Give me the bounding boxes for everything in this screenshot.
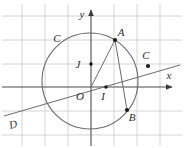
point-label-A: A	[117, 26, 125, 38]
x-axis-label: x	[166, 69, 172, 81]
point-label-C: C	[142, 49, 150, 61]
figure-canvas: A B C I J O x y C D	[0, 0, 184, 148]
point-marker-A[interactable]	[113, 38, 117, 42]
point-label-O: O	[76, 90, 84, 102]
figure-background	[0, 0, 184, 148]
point-marker-C[interactable]	[146, 64, 150, 68]
circle-label-C: C	[53, 32, 61, 44]
geometry-figure: A B C I J O x y C D	[0, 0, 184, 148]
y-axis-label: y	[79, 8, 85, 20]
point-label-B: B	[129, 111, 136, 123]
point-marker-J[interactable]	[89, 62, 93, 66]
point-marker-I[interactable]	[104, 85, 108, 89]
